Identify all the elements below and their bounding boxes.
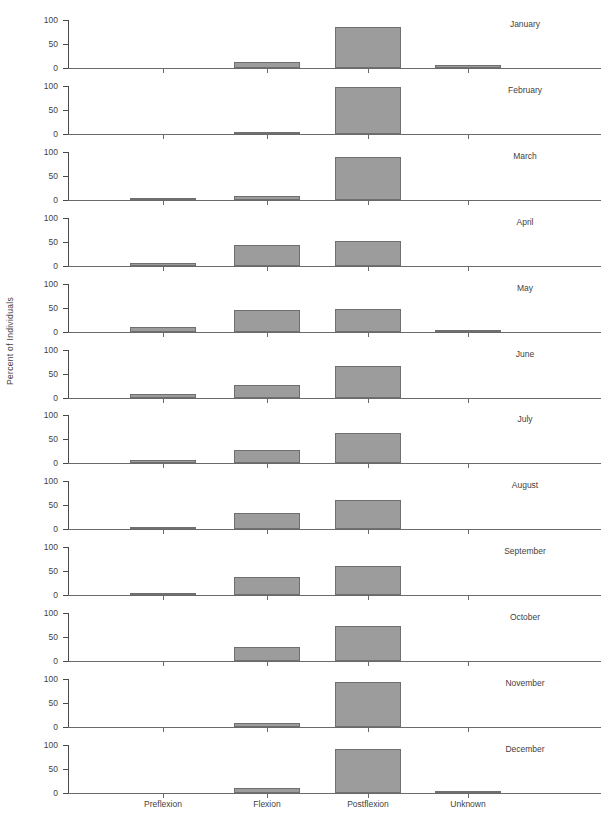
y-tick-label-0: 0 [18, 130, 58, 139]
bar-august-preflexion [130, 527, 196, 529]
panel-month-label: February [455, 85, 595, 95]
x-tick-mark-postflexion [368, 69, 369, 73]
x-tick-mark-preflexion [163, 135, 164, 139]
panel-month-label: May [455, 283, 595, 293]
x-tick-mark-postflexion [368, 794, 369, 798]
chart-figure: Percent of Individuals 050100January0501… [0, 0, 609, 829]
x-tick-mark-flexion [267, 399, 268, 403]
y-tick-label-50: 50 [18, 40, 58, 49]
panel-month-label: January [455, 19, 595, 29]
bar-november-postflexion [335, 682, 401, 727]
x-axis-label-preflexion: Preflexion [103, 799, 223, 809]
panel-month-label: November [455, 678, 595, 688]
x-axis-spine [68, 463, 601, 464]
bar-october-postflexion [335, 626, 401, 661]
y-tick-label-0: 0 [18, 525, 58, 534]
bar-august-postflexion [335, 500, 401, 529]
x-tick-mark-flexion [267, 662, 268, 666]
bar-february-flexion [234, 132, 300, 134]
x-tick-mark-unknown [468, 135, 469, 139]
y-tick-label-50: 50 [18, 304, 58, 313]
y-tick-label-0: 0 [18, 459, 58, 468]
x-tick-mark-unknown [468, 530, 469, 534]
y-tick-label-100: 100 [18, 543, 58, 552]
y-tick-label-50: 50 [18, 765, 58, 774]
x-tick-mark-postflexion [368, 399, 369, 403]
y-tick-label-100: 100 [18, 214, 58, 223]
y-tick-label-100: 100 [18, 609, 58, 618]
panel-month-label: October [455, 612, 595, 622]
y-tick-label-50: 50 [18, 238, 58, 247]
y-tick-label-100: 100 [18, 280, 58, 289]
panel-month-label: June [455, 349, 595, 359]
y-tick-label-100: 100 [18, 16, 58, 25]
bar-march-postflexion [335, 157, 401, 200]
x-tick-mark-preflexion [163, 267, 164, 271]
x-tick-mark-unknown [468, 201, 469, 205]
bar-may-flexion [234, 310, 300, 331]
panel-october: 050100October [0, 613, 609, 679]
x-tick-mark-flexion [267, 69, 268, 73]
panel-month-label: April [455, 217, 595, 227]
x-axis-spine [68, 727, 601, 728]
x-tick-mark-preflexion [163, 399, 164, 403]
x-tick-mark-flexion [267, 201, 268, 205]
y-tick-label-50: 50 [18, 435, 58, 444]
x-axis-spine [68, 398, 601, 399]
bar-july-postflexion [335, 433, 401, 464]
y-tick-label-0: 0 [18, 394, 58, 403]
panel-april: 050100April [0, 218, 609, 284]
panel-july: 050100July [0, 415, 609, 481]
bar-may-unknown [435, 330, 501, 332]
panel-month-label: July [455, 414, 595, 424]
x-tick-mark-preflexion [163, 596, 164, 600]
y-tick-label-0: 0 [18, 64, 58, 73]
x-tick-mark-postflexion [368, 728, 369, 732]
y-tick-label-100: 100 [18, 346, 58, 355]
x-tick-mark-preflexion [163, 69, 164, 73]
bar-august-flexion [234, 513, 300, 530]
bar-december-postflexion [335, 749, 401, 793]
panel-month-label: March [455, 151, 595, 161]
bar-june-postflexion [335, 366, 401, 397]
bar-january-flexion [234, 62, 300, 68]
bar-april-preflexion [130, 263, 196, 265]
x-tick-mark-flexion [267, 135, 268, 139]
x-axis-label-unknown: Unknown [408, 799, 528, 809]
x-tick-mark-unknown [468, 267, 469, 271]
y-tick-label-0: 0 [18, 591, 58, 600]
bar-april-flexion [234, 245, 300, 266]
panel-august: 050100August [0, 481, 609, 547]
x-tick-mark-postflexion [368, 333, 369, 337]
y-tick-label-100: 100 [18, 741, 58, 750]
x-tick-mark-unknown [468, 662, 469, 666]
y-tick-label-100: 100 [18, 148, 58, 157]
y-tick-label-0: 0 [18, 723, 58, 732]
x-tick-mark-preflexion [163, 201, 164, 205]
bar-may-postflexion [335, 309, 401, 332]
x-tick-mark-postflexion [368, 464, 369, 468]
bar-april-postflexion [335, 241, 401, 266]
x-tick-mark-flexion [267, 794, 268, 798]
x-tick-mark-unknown [468, 69, 469, 73]
y-tick-label-0: 0 [18, 328, 58, 337]
bar-november-flexion [234, 723, 300, 727]
panel-month-label: September [455, 546, 595, 556]
x-tick-mark-postflexion [368, 201, 369, 205]
x-tick-mark-flexion [267, 728, 268, 732]
bar-october-flexion [234, 647, 300, 661]
x-tick-mark-flexion [267, 333, 268, 337]
bar-february-postflexion [335, 87, 401, 134]
y-tick-label-0: 0 [18, 262, 58, 271]
x-axis-spine [68, 529, 601, 530]
y-tick-label-100: 100 [18, 477, 58, 486]
y-tick-label-0: 0 [18, 789, 58, 798]
x-tick-mark-flexion [267, 530, 268, 534]
x-axis-spine [68, 793, 601, 794]
panel-month-label: August [455, 480, 595, 490]
bar-january-postflexion [335, 27, 401, 68]
y-tick-label-50: 50 [18, 370, 58, 379]
y-tick-label-100: 100 [18, 675, 58, 684]
x-tick-mark-unknown [468, 464, 469, 468]
panel-march: 050100March [0, 152, 609, 218]
